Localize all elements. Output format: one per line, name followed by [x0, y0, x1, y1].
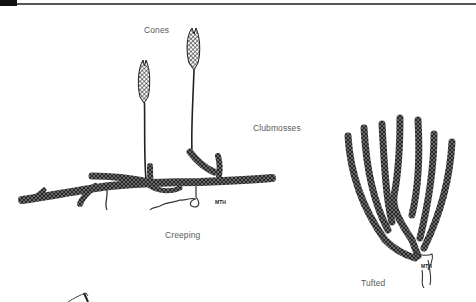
tufted-clubmoss-drawing: MTH — [348, 118, 452, 288]
creeping-clubmoss-drawing: MTH — [22, 28, 272, 210]
cone-left — [138, 60, 149, 180]
label-clubmosses: Clubmosses — [253, 123, 301, 133]
cone-right — [187, 28, 200, 152]
label-creeping: Creeping — [165, 230, 200, 240]
clubmoss-illustration: MTH MTH — [0, 0, 476, 302]
partial-plant-drawing — [68, 293, 88, 302]
label-cones: Cones — [144, 25, 169, 35]
creeping-signature: MTH — [215, 199, 226, 205]
tufted-signature: MTH — [421, 263, 432, 269]
label-tufted: Tufted — [361, 278, 385, 288]
